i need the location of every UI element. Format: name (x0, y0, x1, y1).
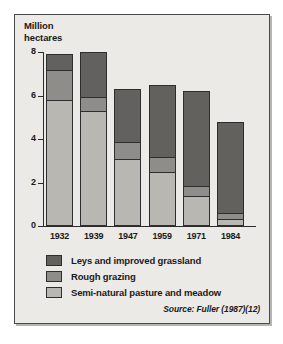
y-tick-8: 8 (38, 52, 43, 53)
y-tick-6: 6 (38, 96, 43, 97)
bar-segment (47, 101, 72, 226)
bar-segment (150, 86, 175, 158)
legend-item[interactable]: Semi-natural pasture and meadow (46, 285, 261, 300)
legend-swatch-icon (46, 271, 62, 282)
figure: Million hectares 02468 19321939194719591… (0, 0, 283, 344)
source-note: Source: Fuller (1987)(12) (163, 304, 260, 314)
stacked-bar[interactable] (149, 85, 176, 226)
y-tick-label: 8 (31, 46, 36, 56)
x-label-1971: 1971 (183, 231, 210, 241)
x-axis-line (43, 226, 256, 227)
legend-label: Semi-natural pasture and meadow (71, 287, 221, 298)
chart-panel: Million hectares 02468 19321939194719591… (14, 14, 270, 324)
stacked-bar[interactable] (183, 91, 210, 226)
x-label-1959: 1959 (149, 231, 176, 241)
x-label-1939: 1939 (80, 231, 107, 241)
y-tick-2: 2 (38, 183, 43, 184)
stacked-bar[interactable] (46, 54, 73, 226)
legend-item[interactable]: Rough grazing (46, 269, 261, 284)
legend-swatch-icon (46, 287, 62, 298)
legend-swatch-icon (46, 255, 62, 266)
bar-segment (184, 92, 209, 186)
y-tick-label: 4 (31, 133, 36, 143)
y-tick-4: 4 (38, 139, 43, 140)
y-axis-line (43, 52, 44, 227)
y-tick-label: 2 (31, 177, 36, 187)
x-label-1932: 1932 (46, 231, 73, 241)
bar-segment (218, 220, 243, 226)
bar-segment (184, 186, 209, 197)
bar-segment (81, 112, 106, 226)
bar-segment (47, 70, 72, 100)
bar-segment (81, 97, 106, 112)
bar-segment (47, 55, 72, 70)
legend-label: Rough grazing (71, 271, 136, 282)
y-tick-0: 0 (38, 226, 43, 227)
bar-segment (150, 173, 175, 226)
legend-label: Leys and improved grassland (71, 255, 201, 266)
bar-segment (115, 90, 140, 142)
stacked-bar[interactable] (114, 89, 141, 226)
bar-segment (218, 123, 243, 213)
bar-segment (150, 157, 175, 172)
bar-segment (81, 53, 106, 97)
y-tick-label: 6 (31, 90, 36, 100)
bar-segment (218, 213, 243, 221)
bar-segment (115, 142, 140, 159)
legend-item[interactable]: Leys and improved grassland (46, 253, 261, 268)
bar-segment (184, 197, 209, 226)
stacked-bar[interactable] (217, 122, 244, 226)
legend: Leys and improved grasslandRough grazing… (46, 253, 261, 301)
bar-segment (115, 160, 140, 226)
x-label-1984: 1984 (217, 231, 244, 241)
y-tick-label: 0 (31, 220, 36, 230)
x-label-1947: 1947 (114, 231, 141, 241)
stacked-bar[interactable] (80, 52, 107, 226)
